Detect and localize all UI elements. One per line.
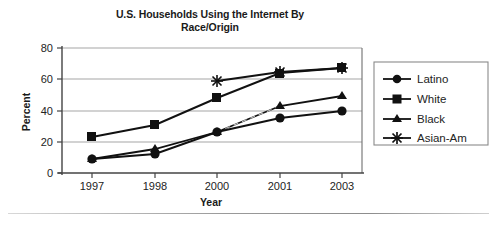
y-tick-label-0: 0 [47, 167, 53, 179]
y-tick-label-60: 60 [41, 73, 53, 85]
x-tick-label-1998: 1998 [143, 180, 167, 192]
data-point-latino-2001 [275, 113, 284, 122]
data-point-asian-am-2001 [274, 66, 286, 78]
data-point-asian-am-2000 [211, 75, 223, 87]
data-point-asian-am-2003 [336, 62, 348, 74]
x-tick-label-1997: 1997 [80, 180, 104, 192]
y-axis-ticks [57, 48, 62, 173]
data-point-latino-1997 [87, 154, 96, 163]
square-marker-icon [393, 95, 402, 104]
y-tick-label-80: 80 [41, 42, 53, 54]
x-tick-label-2000: 2000 [205, 180, 229, 192]
data-point-white-1998 [150, 120, 159, 129]
circle-marker-icon [393, 75, 402, 84]
y-tick-label-20: 20 [41, 136, 53, 148]
x-tick-label-2001: 2001 [268, 180, 292, 192]
y-tick-label-40: 40 [41, 105, 53, 117]
plot-background [62, 48, 362, 173]
data-point-white-2000 [212, 93, 221, 102]
x-axis-ticks [92, 173, 342, 178]
chart-legend: Latino White Black [374, 62, 488, 145]
legend-label-black: Black [417, 113, 445, 125]
legend-label-latino: Latino [417, 73, 448, 85]
line-chart-plot: 80 60 40 20 0 1997 1998 2000 2001 2003 Y… [0, 0, 497, 227]
chart-figure: U.S. Households Using the Internet By Ra… [0, 0, 497, 227]
data-point-latino-2000 [212, 127, 221, 136]
legend-label-asian-am: Asian-Am [417, 132, 467, 144]
data-point-latino-1998 [150, 149, 159, 158]
x-tick-label-2003: 2003 [330, 180, 354, 192]
legend-label-white: White [417, 93, 446, 105]
x-axis-title: Year [200, 196, 222, 208]
y-axis-title: Percent [20, 92, 32, 131]
data-point-latino-2003 [337, 106, 346, 115]
star-marker-icon [391, 132, 403, 144]
data-point-white-1997 [87, 132, 96, 141]
footer-divider [8, 213, 489, 214]
